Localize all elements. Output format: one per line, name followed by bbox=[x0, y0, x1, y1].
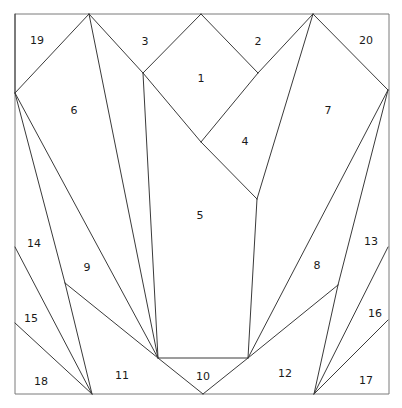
region-label-15: 15 bbox=[24, 312, 38, 325]
region-label-4: 4 bbox=[242, 135, 249, 148]
region-label-2: 2 bbox=[255, 35, 262, 48]
region-label-8: 8 bbox=[314, 259, 321, 272]
region-label-9: 9 bbox=[84, 261, 91, 274]
figure-canvas: 1234567891011121314151617181920 bbox=[0, 0, 402, 408]
polygon-dissection-svg bbox=[0, 0, 402, 408]
region-label-13: 13 bbox=[364, 235, 378, 248]
region-label-14: 14 bbox=[27, 237, 41, 250]
region-label-17: 17 bbox=[359, 374, 373, 387]
region-label-1: 1 bbox=[198, 72, 205, 85]
region-label-12: 12 bbox=[278, 367, 292, 380]
region-label-19: 19 bbox=[30, 34, 44, 47]
region-label-18: 18 bbox=[34, 375, 48, 388]
region-label-16: 16 bbox=[368, 307, 382, 320]
region-label-11: 11 bbox=[115, 369, 129, 382]
region-label-10: 10 bbox=[196, 370, 210, 383]
region-label-3: 3 bbox=[142, 35, 149, 48]
region-label-7: 7 bbox=[325, 104, 332, 117]
canvas-background bbox=[0, 0, 402, 408]
region-label-6: 6 bbox=[71, 104, 78, 117]
region-label-20: 20 bbox=[359, 34, 373, 47]
region-label-5: 5 bbox=[197, 209, 204, 222]
